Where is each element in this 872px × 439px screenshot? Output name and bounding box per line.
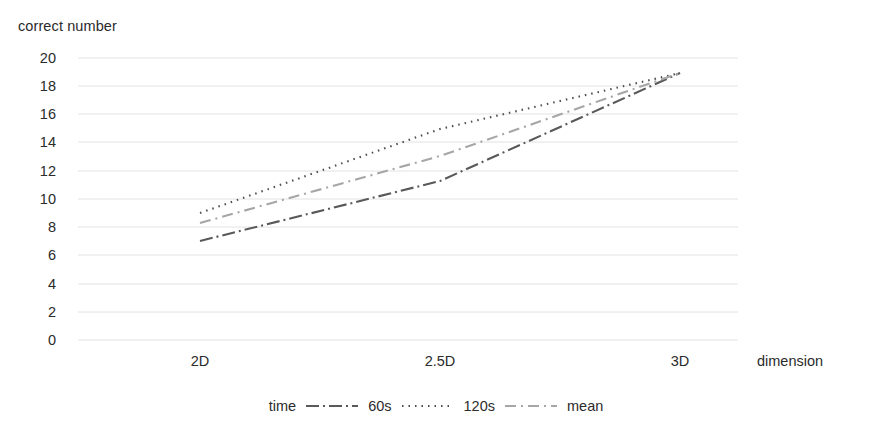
legend-swatch-60s [305,400,359,412]
series-line-60s [200,73,680,241]
gridlines [78,58,738,340]
legend-label-mean: mean [567,398,603,414]
chart-legend: time 60s 120s mean [0,398,872,414]
series-lines [200,73,680,241]
legend-label-120s: 120s [464,398,495,414]
series-line-mean [200,73,680,223]
legend-swatch-mean [504,400,558,412]
plot-area [0,0,872,439]
legend-title: time [269,398,296,414]
series-line-120s [200,73,680,213]
legend-label-60s: 60s [368,398,391,414]
line-chart: correct number dimension 20 18 16 14 12 … [0,0,872,439]
legend-swatch-120s [401,400,455,412]
